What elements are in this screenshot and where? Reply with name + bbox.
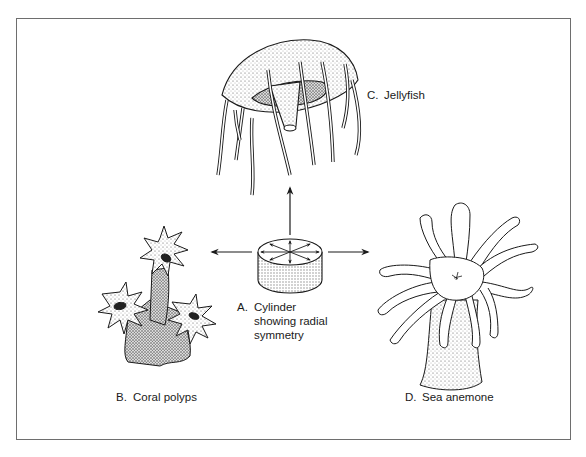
label-cylinder: A.Cylinder showing radial symmetry	[237, 300, 328, 342]
label-letter: A.	[237, 300, 254, 314]
label-sea-anemone: D.Sea anemone	[405, 390, 494, 404]
coral-polyps-illustration	[98, 226, 216, 366]
jellyfish-illustration	[218, 40, 359, 195]
cylinder-illustration	[258, 239, 322, 293]
label-jellyfish: C.Jellyfish	[367, 88, 425, 102]
diagram-canvas	[0, 0, 586, 457]
sea-anemone-illustration	[378, 203, 538, 390]
label-coral-polyps: B.Coral polyps	[116, 390, 197, 404]
